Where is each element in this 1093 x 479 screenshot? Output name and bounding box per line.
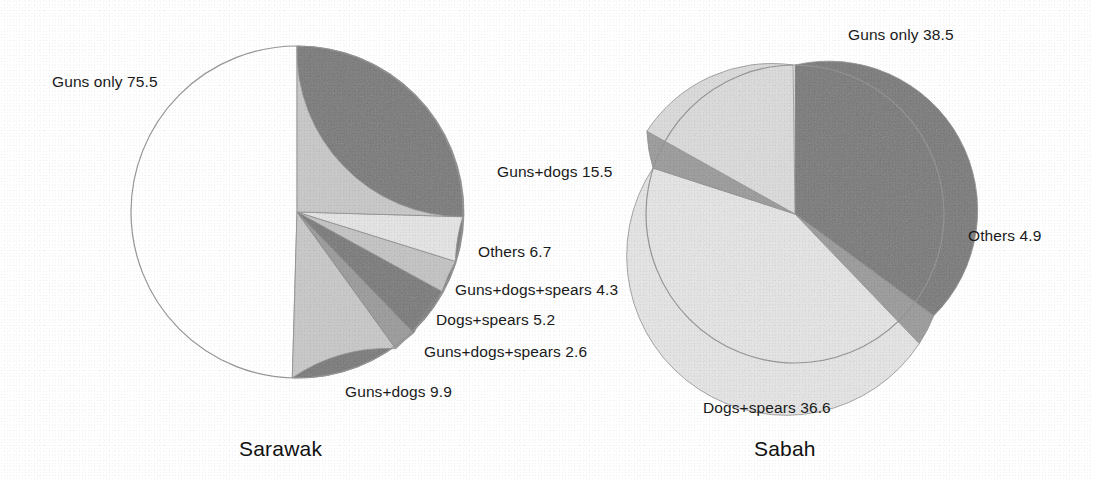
panel-title-sabah: Sabah [754,437,816,461]
panel-title-sarawak: Sarawak [239,437,322,461]
label-sabah-guns-only: Guns only 38.5 [848,26,954,44]
label-sabah-others: Others 4.9 [968,227,1041,245]
label-sarawak-guns-dogs-spears-4-3: Guns+dogs+spears 4.3 [455,281,618,299]
label-sarawak-guns-dogs-spears-2-6: Guns+dogs+spears 2.6 [424,343,587,361]
sabah-slices [627,61,978,415]
label-sarawak-guns-dogs-9-9: Guns+dogs 9.9 [345,383,452,401]
label-sarawak-others: Others 6.7 [478,243,551,261]
label-sabah-dogs-spears: Dogs+spears 36.6 [703,399,831,417]
label-sarawak-guns-dogs-15-5: Guns+dogs 15.5 [497,163,613,181]
label-sarawak-guns-only: Guns only 75.5 [52,73,158,91]
pie-charts-canvas [0,0,1093,479]
figure-root: Guns only 75.5 Guns+dogs 15.5 Others 6.7… [0,0,1093,479]
sarawak-pie [131,46,464,378]
sabah-pie [627,61,978,415]
label-sarawak-dogs-spears: Dogs+spears 5.2 [436,311,555,329]
